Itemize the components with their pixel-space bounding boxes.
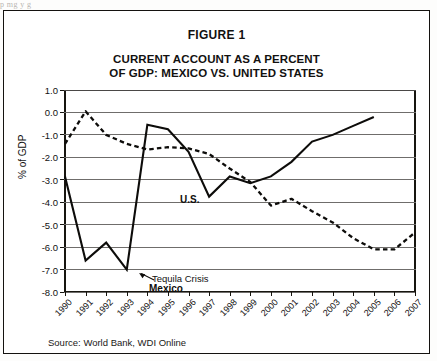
figure-frame: FIGURE 1 CURRENT ACCOUNT AS A PERCENT OF… — [3, 10, 430, 354]
y-axis-tick-label: 0.0 — [45, 107, 58, 118]
chart-title: CURRENT ACCOUNT AS A PERCENT OF GDP: MEX… — [4, 52, 429, 80]
series-line-mexico — [65, 117, 374, 270]
scan-artifact-text: p mg y g — [0, 0, 437, 9]
y-axis-tick-label: -5.0 — [42, 219, 58, 230]
tequila-crisis-annotation: Tequila Crisis — [152, 273, 209, 284]
y-axis-tick-label: 1.0 — [45, 85, 58, 96]
y-axis-tick-label: -4.0 — [42, 197, 58, 208]
series-lines — [64, 90, 416, 292]
y-axis-tick-label: -3.0 — [42, 174, 58, 185]
series-label-mexico: Mexico — [149, 283, 183, 294]
y-axis-tick-label: -7.0 — [42, 264, 58, 275]
figure-number: FIGURE 1 — [4, 28, 429, 42]
y-axis-tick-label: -1.0 — [42, 129, 58, 140]
series-label-us: U.S. — [180, 194, 199, 205]
source-note: Source: World Bank, WDI Online — [48, 337, 186, 348]
chart-title-line-2: OF GDP: MEXICO VS. UNITED STATES — [4, 66, 429, 80]
y-axis-tick-label: -8.0 — [42, 287, 58, 298]
plot-area: 1.00.0-1.0-2.0-3.0-4.0-5.0-6.0-7.0-8.0 1… — [64, 90, 416, 292]
figure-page: p mg y g FIGURE 1 CURRENT ACCOUNT AS A P… — [0, 0, 437, 361]
y-axis-tick-label: -2.0 — [42, 152, 58, 163]
y-axis-tick-label: -6.0 — [42, 242, 58, 253]
chart-title-line-1: CURRENT ACCOUNT AS A PERCENT — [4, 52, 429, 66]
y-axis-title: % of GDP — [17, 135, 28, 179]
